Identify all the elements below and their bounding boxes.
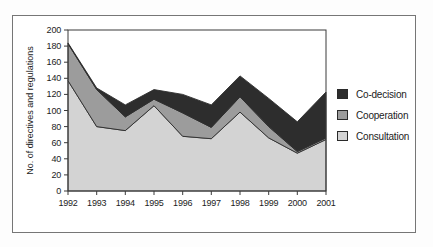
- svg-text:60: 60: [51, 138, 61, 148]
- svg-text:120: 120: [47, 89, 62, 99]
- svg-text:20: 20: [51, 170, 61, 180]
- svg-text:1994: 1994: [116, 198, 135, 208]
- legend-label-consultation: Consultation: [356, 131, 409, 142]
- legend-swatch-consultation: [337, 131, 348, 141]
- svg-text:100: 100: [47, 106, 62, 116]
- legend: Co-decision Cooperation Consultation: [337, 88, 409, 142]
- svg-text:180: 180: [47, 41, 62, 51]
- svg-text:No. of directives and regulati: No. of directives and regulations: [25, 46, 35, 175]
- svg-text:1996: 1996: [173, 198, 192, 208]
- svg-text:1999: 1999: [259, 198, 278, 208]
- svg-text:1995: 1995: [144, 198, 163, 208]
- svg-text:80: 80: [51, 122, 61, 132]
- legend-label-cooperation: Cooperation: [356, 110, 408, 121]
- legend-label-co-decision: Co-decision: [356, 89, 407, 100]
- svg-text:1997: 1997: [202, 198, 221, 208]
- svg-text:160: 160: [47, 57, 62, 67]
- svg-text:1993: 1993: [87, 198, 106, 208]
- legend-item-cooperation: Cooperation: [337, 109, 409, 121]
- svg-text:140: 140: [47, 73, 62, 83]
- svg-text:1998: 1998: [230, 198, 249, 208]
- figure-frame: 0204060801001201401601802001992199319941…: [12, 15, 416, 233]
- legend-swatch-co-decision: [337, 89, 348, 99]
- svg-text:0: 0: [56, 186, 61, 196]
- svg-text:2001: 2001: [316, 198, 335, 208]
- legend-swatch-cooperation: [337, 110, 348, 120]
- svg-text:200: 200: [47, 25, 62, 35]
- svg-text:2000: 2000: [288, 198, 307, 208]
- svg-text:1992: 1992: [58, 198, 77, 208]
- legend-item-consultation: Consultation: [337, 130, 409, 142]
- svg-text:40: 40: [51, 154, 61, 164]
- legend-item-co-decision: Co-decision: [337, 88, 409, 100]
